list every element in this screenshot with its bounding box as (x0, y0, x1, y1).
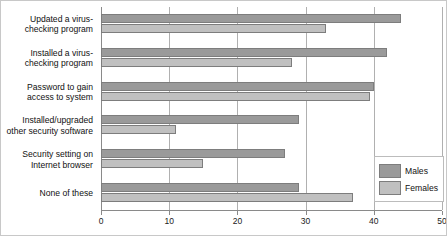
x-tick-50 (442, 211, 443, 215)
bar-group (101, 14, 442, 34)
x-tick-20 (237, 211, 238, 215)
bar-chart-figure: Updated a virus-checking programInstalle… (0, 0, 447, 236)
gridline-30 (306, 7, 307, 210)
category-label: Installed a virus-checking program (1, 47, 93, 68)
x-tick-label-40: 40 (369, 216, 378, 226)
x-tick-label-30: 30 (301, 216, 310, 226)
x-tick-label-0: 0 (99, 216, 104, 226)
bar-females (101, 92, 370, 101)
category-label: Security setting on Internet browser (1, 149, 93, 170)
bar-males (101, 149, 285, 158)
bar-males (101, 82, 374, 91)
bar-group (101, 48, 442, 68)
legend: Males Females (374, 156, 444, 202)
bar-males (101, 48, 387, 57)
bar-group (101, 82, 442, 102)
bar-females (101, 125, 176, 134)
legend-swatch-males-icon (379, 164, 401, 178)
bar-males (101, 115, 299, 124)
x-tick-label-50: 50 (437, 216, 446, 226)
x-tick-30 (306, 211, 307, 215)
bar-females (101, 193, 353, 202)
x-axis-line (101, 210, 442, 211)
x-tick-label-10: 10 (164, 216, 173, 226)
gridline-0 (101, 7, 102, 210)
category-label: Updated a virus-checking program (1, 13, 93, 34)
category-label: Password to gain access to system (1, 81, 93, 102)
legend-label-females: Females (405, 183, 438, 193)
legend-entry-males[interactable]: Males (379, 164, 428, 178)
legend-label-males: Males (405, 166, 428, 176)
x-tick-40 (374, 211, 375, 215)
bar-group (101, 115, 442, 135)
category-axis-labels: Updated a virus-checking programInstalle… (1, 7, 97, 210)
legend-entry-females[interactable]: Females (379, 181, 438, 195)
bar-females (101, 58, 292, 67)
x-tick-label-20: 20 (233, 216, 242, 226)
bar-males (101, 183, 299, 192)
legend-swatch-females-icon (379, 181, 401, 195)
gridline-10 (169, 7, 170, 210)
bar-females (101, 159, 203, 168)
gridline-20 (237, 7, 238, 210)
category-label: Installed/upgraded other security softwa… (1, 115, 93, 136)
x-tick-0 (101, 211, 102, 215)
category-label: None of these (1, 188, 93, 199)
bar-males (101, 14, 401, 23)
bar-females (101, 24, 326, 33)
x-tick-10 (169, 211, 170, 215)
